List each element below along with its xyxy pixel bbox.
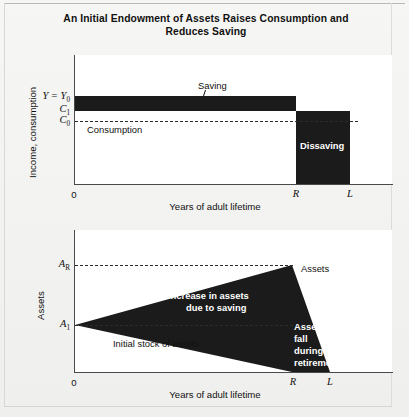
x-tick-l-bottom: L: [322, 376, 338, 387]
chart-assets: Assets AR A1 0 R L Years of adult lifeti…: [0, 205, 409, 417]
x-axis-top: [74, 184, 393, 185]
annotation-fall-line1: Assets: [294, 321, 325, 332]
y-axis-top: [74, 55, 75, 185]
x-tick-r-bottom: R: [285, 376, 301, 387]
saving-band: [75, 96, 296, 111]
assets-initial-line: [75, 325, 293, 326]
chart-income-consumption: Income, consumption Y = Y0 C1 C0 0 R L Y…: [0, 0, 409, 205]
y-tick-ar-sub: R: [65, 264, 70, 272]
annotation-saving: Saving: [198, 80, 227, 91]
y-tick-income: Y = Y0: [24, 90, 70, 104]
y-tick-c0-sub: 0: [66, 120, 70, 128]
y-axis-title-bottom: Assets: [35, 291, 46, 320]
annotation-assets-curve: Assets: [301, 263, 329, 274]
consumption-line: [75, 121, 358, 122]
annotation-increase-line1: Increase in assets: [168, 290, 249, 301]
annotation-increase-line2: due to saving: [186, 302, 246, 313]
annotation-consumption: Consumption: [87, 124, 142, 135]
y-tick-c0: C0: [24, 114, 70, 128]
assets-peak-line: [75, 265, 293, 266]
y-tick-income-base: Y = Y: [42, 90, 66, 101]
assets-increase-region: [75, 265, 292, 372]
annotation-initial-stock: Initial stock of assets: [113, 338, 200, 349]
y-axis-bottom: [74, 230, 75, 373]
x-tick-l-top: L: [342, 188, 358, 199]
annotation-fall-line4: retirement: [294, 357, 340, 368]
y-tick-ar: AR: [34, 258, 70, 272]
y-tick-a1: A1: [34, 318, 70, 332]
x-axis-bottom: [74, 372, 393, 373]
figure-page: An Initial Endowment of Assets Raises Co…: [0, 0, 409, 417]
x-axis-title-bottom: Years of adult lifetime: [135, 389, 295, 400]
x-tick-zero-bottom: 0: [66, 377, 82, 388]
annotation-fall-line3: during: [294, 345, 323, 356]
x-tick-r-top: R: [288, 188, 304, 199]
annotation-fall-line2: fall: [294, 333, 308, 344]
x-tick-zero-top: 0: [66, 189, 82, 200]
y-tick-a1-sub: 1: [66, 324, 70, 332]
annotation-dissaving: Dissaving: [300, 140, 344, 151]
